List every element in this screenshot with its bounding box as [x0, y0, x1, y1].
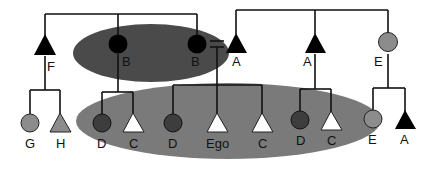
male-triangle-icon — [50, 113, 71, 132]
female-circle-icon — [291, 111, 309, 129]
female-circle-icon — [379, 33, 398, 52]
male-triangle-icon — [34, 34, 56, 55]
male-triangle-icon — [305, 33, 326, 53]
svg-text:H: H — [56, 136, 65, 151]
svg-text:A: A — [400, 132, 409, 147]
upper-group-ellipse — [73, 24, 229, 82]
svg-text:C: C — [258, 136, 267, 151]
svg-text:E: E — [374, 54, 383, 69]
female-circle-icon — [164, 114, 182, 132]
female-circle-icon — [109, 35, 128, 54]
svg-text:F: F — [47, 59, 55, 74]
right-sibling-line — [236, 10, 388, 34]
svg-text:C: C — [129, 136, 138, 151]
kinship-diagram: F B B A A E G H D C D Ego — [0, 0, 434, 169]
svg-text:E: E — [368, 132, 377, 147]
female-circle-icon — [188, 35, 207, 54]
svg-text:A: A — [303, 54, 312, 69]
svg-text:G: G — [25, 136, 35, 151]
svg-text:B: B — [122, 54, 131, 69]
female-circle-icon — [21, 114, 39, 132]
node-A1: A — [226, 33, 247, 69]
female-circle-icon — [93, 114, 111, 132]
svg-text:D: D — [97, 136, 106, 151]
svg-text:Ego: Ego — [206, 136, 229, 151]
male-triangle-icon — [226, 33, 247, 53]
node-E1: E — [374, 33, 398, 70]
node-H: H — [50, 113, 71, 151]
node-G: G — [21, 114, 39, 151]
node-A3: A — [395, 110, 416, 147]
svg-text:A: A — [232, 54, 241, 69]
male-triangle-icon — [395, 110, 416, 129]
svg-text:B: B — [191, 54, 200, 69]
svg-text:D: D — [168, 136, 177, 151]
svg-text:C: C — [327, 133, 336, 148]
female-circle-icon — [364, 110, 382, 128]
svg-text:D: D — [296, 133, 305, 148]
